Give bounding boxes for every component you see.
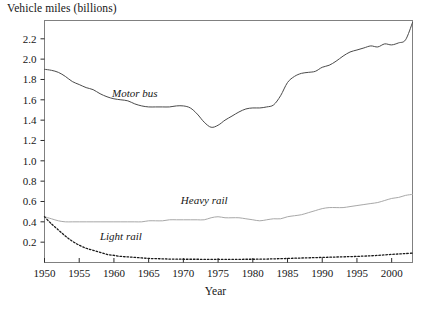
x-axis-tick-label: 1950 (34, 267, 57, 279)
x-axis-tick-label: 1995 (346, 267, 369, 279)
series-label-light-rail: Light rail (99, 230, 142, 242)
series-label-heavy-rail: Heavy rail (180, 194, 228, 206)
chart-figure: Vehicle miles (billions) 0.20.40.60.81.0… (0, 0, 431, 309)
y-axis-tick-label: 0.4 (23, 216, 37, 228)
x-axis-tick-label: 1970 (172, 267, 195, 279)
y-axis-tick-label: 1.8 (23, 73, 37, 85)
series-line-motor-bus (45, 23, 413, 128)
y-axis-tick-label: 0.2 (23, 236, 37, 248)
x-axis-tick-label: 1955 (68, 267, 91, 279)
plot-frame (45, 21, 413, 263)
x-axis-tick-label: 1985 (277, 267, 300, 279)
x-axis-tick-label: 1960 (103, 267, 126, 279)
x-axis-tick-label: 1980 (242, 267, 265, 279)
x-axis-tick-label: 1965 (138, 267, 161, 279)
x-axis-tick-label: 1990 (311, 267, 334, 279)
y-axis-tick-label: 0.6 (23, 195, 37, 207)
x-axis-title: Year (0, 285, 431, 297)
y-axis-tick-label: 1.2 (23, 134, 37, 146)
x-axis-tick-label: 1975 (207, 267, 230, 279)
series-label-motor-bus: Motor bus (111, 87, 158, 99)
line-chart-plot: 0.20.40.60.81.01.21.41.61.82.02.21950195… (0, 0, 431, 309)
y-axis-tick-label: 2.2 (23, 33, 37, 45)
y-axis-tick-label: 1.6 (23, 94, 37, 106)
y-axis-tick-label: 0.8 (23, 175, 37, 187)
y-axis-tick-label: 2.0 (23, 53, 37, 65)
y-axis-tick-label: 1.4 (23, 114, 37, 126)
y-axis-tick-label: 1.0 (23, 155, 37, 167)
series-line-heavy-rail (45, 194, 413, 222)
x-axis-tick-label: 2000 (381, 267, 404, 279)
